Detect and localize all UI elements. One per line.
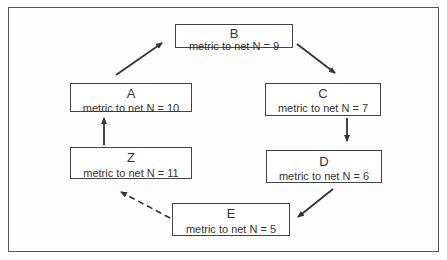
node-e: E metric to net N = 5: [172, 203, 290, 236]
node-a: A metric to net N = 10: [70, 83, 192, 112]
node-z: Z metric to net N = 11: [70, 147, 192, 179]
node-a-metric: metric to net N = 10: [71, 102, 191, 114]
node-c-metric: metric to net N = 7: [266, 102, 380, 114]
node-e-title: E: [173, 207, 289, 220]
node-b: B metric to net N = 9: [175, 24, 293, 48]
node-z-title: Z: [71, 151, 191, 164]
node-b-metric: metric to net N = 9: [176, 40, 292, 52]
node-d-metric: metric to net N = 6: [267, 170, 381, 182]
node-z-metric: metric to net N = 11: [71, 167, 191, 179]
node-c: C metric to net N = 7: [265, 83, 381, 116]
node-c-title: C: [266, 87, 380, 100]
node-e-metric: metric to net N = 5: [173, 223, 289, 235]
node-a-title: A: [71, 87, 191, 100]
node-d: D metric to net N = 6: [266, 150, 382, 183]
node-d-title: D: [267, 155, 381, 168]
node-b-title: B: [176, 27, 292, 40]
